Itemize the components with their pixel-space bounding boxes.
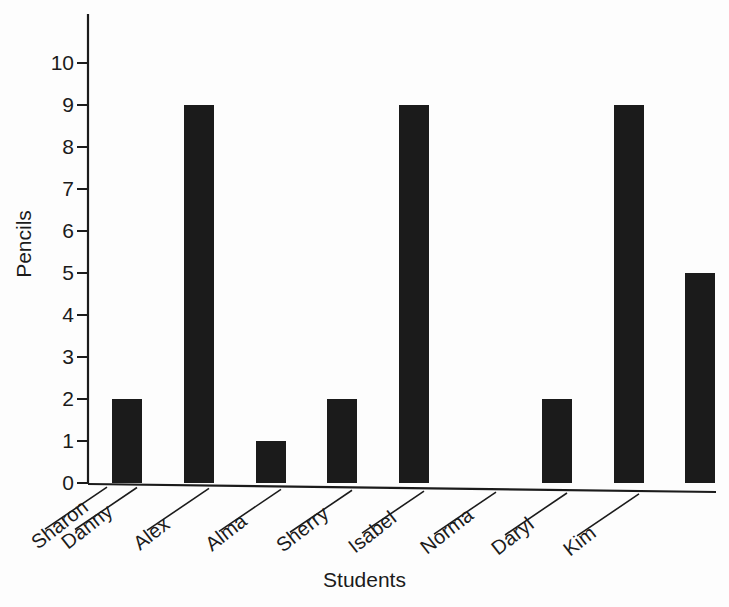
category-leader-lines xyxy=(45,487,639,536)
y-axis-title: Pencils xyxy=(12,184,36,304)
bar xyxy=(112,399,142,483)
y-axis-tick-label: 4 xyxy=(28,304,74,325)
y-axis-tick-label: 2 xyxy=(28,388,74,409)
y-axis-tick-marks xyxy=(77,63,88,483)
x-axis-title: Students xyxy=(0,568,729,592)
bars-group xyxy=(112,105,715,483)
y-axis-tick-label: 8 xyxy=(28,136,74,157)
y-axis-tick-label: 1 xyxy=(28,430,74,451)
bar xyxy=(399,105,429,483)
y-axis-tick-label: 9 xyxy=(28,94,74,115)
y-axis-tick-label: 3 xyxy=(28,346,74,367)
bar xyxy=(542,399,572,483)
bar xyxy=(614,105,644,483)
plot-area: 012345678910 SharonDannyAlexAlmaSherryIs… xyxy=(0,0,729,607)
bar xyxy=(184,105,214,483)
bar xyxy=(327,399,357,483)
y-axis-tick-label: 0 xyxy=(28,472,74,493)
x-axis-line xyxy=(88,484,716,492)
y-axis-tick-label: 10 xyxy=(28,52,74,73)
bar xyxy=(685,273,715,483)
bar xyxy=(256,441,286,483)
bar-chart-figure: 012345678910 SharonDannyAlexAlmaSherryIs… xyxy=(0,0,729,607)
